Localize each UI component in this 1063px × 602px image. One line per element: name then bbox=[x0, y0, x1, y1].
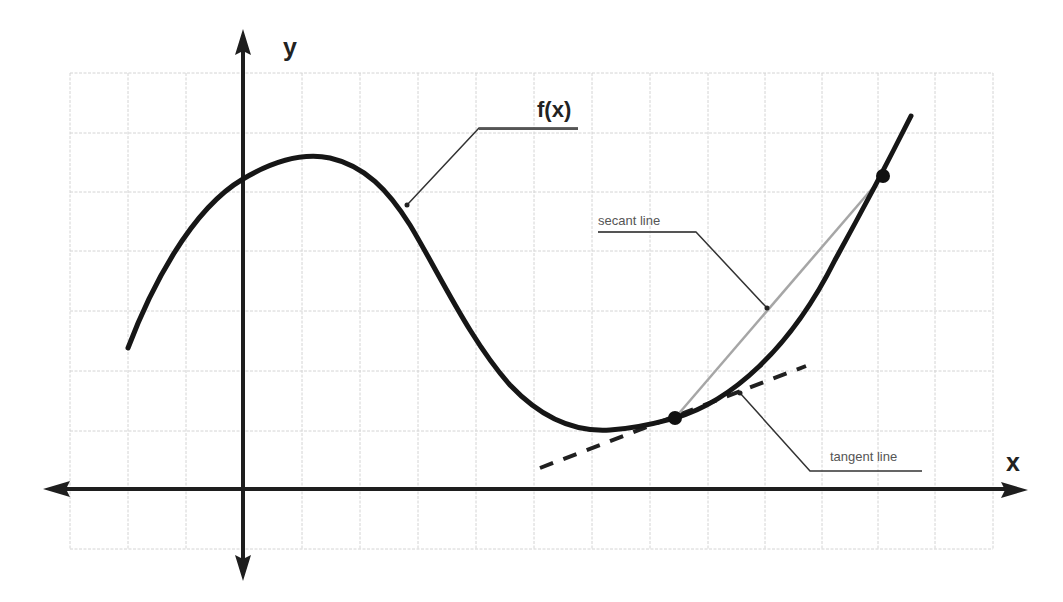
x-axis-left-arrow-icon bbox=[43, 481, 70, 497]
tangent-label: tangent line bbox=[830, 449, 897, 464]
diagram-canvas: y x f(x) secant line tangent line bbox=[0, 0, 1063, 602]
tangent-point bbox=[668, 411, 682, 425]
background-grid bbox=[70, 73, 993, 549]
function-callout: f(x) bbox=[405, 97, 579, 208]
secant-line bbox=[675, 176, 883, 418]
secant-label: secant line bbox=[598, 213, 660, 228]
x-axis-right-arrow-icon bbox=[1001, 482, 1028, 498]
function-curve bbox=[128, 116, 911, 430]
secant-end-point bbox=[876, 169, 890, 183]
secant-callout: secant line bbox=[598, 213, 770, 311]
y-axis bbox=[235, 29, 251, 581]
x-axis-label: x bbox=[1006, 448, 1020, 476]
function-label: f(x) bbox=[537, 97, 571, 122]
x-axis bbox=[43, 481, 1028, 498]
function-diagram: y x f(x) secant line tangent line bbox=[0, 0, 1063, 602]
y-axis-label: y bbox=[283, 33, 297, 61]
